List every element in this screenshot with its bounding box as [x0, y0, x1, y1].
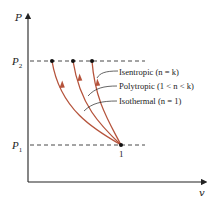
p2-label: P2	[11, 55, 23, 70]
polytropic-leader	[88, 86, 117, 96]
isentropic-leader	[97, 71, 118, 78]
isentropic-arrow-icon	[96, 79, 101, 87]
x-axis-label: v	[199, 187, 205, 198]
isentropic-end-dot	[90, 59, 94, 63]
isentropic-label: Isentropic (n = k)	[119, 67, 179, 77]
polytropic-end-dot	[71, 59, 75, 63]
polytropic-label: Polytropic (1 < n < k)	[119, 81, 194, 91]
isothermal-leader	[84, 101, 117, 111]
isentropic-curve	[92, 61, 121, 145]
state-1-dot	[119, 143, 123, 147]
isothermal-end-dot	[50, 59, 54, 63]
y-axis-label: P	[14, 12, 22, 23]
isothermal-label: Isothermal (n = 1)	[119, 96, 181, 106]
p1-label: P1	[11, 139, 23, 154]
polytropic-arrow-icon	[78, 74, 83, 82]
diagram-svg: P v P2 P1 1 Isentropic (n = k) Polytropi…	[0, 0, 221, 200]
state-1-label: 1	[119, 149, 124, 159]
pv-diagram: P v P2 P1 1 Isentropic (n = k) Polytropi…	[0, 0, 221, 200]
isothermal-arrow-icon	[60, 81, 65, 89]
